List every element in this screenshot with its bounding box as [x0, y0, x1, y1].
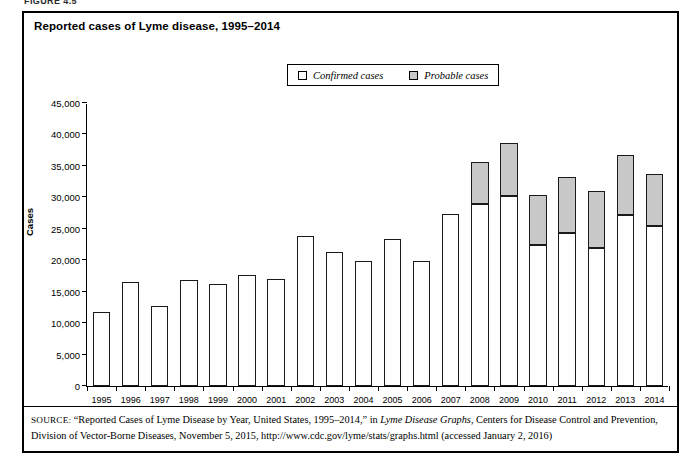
page-title: Reported cases of Lyme disease, 1995–201…	[34, 20, 280, 32]
y-axis-title: Cases	[24, 208, 35, 236]
chart-legend: Confirmed cases Probable cases	[287, 64, 499, 86]
legend-label-probable: Probable cases	[424, 70, 488, 81]
source-label: SOURCE:	[31, 415, 71, 425]
legend-label-confirmed: Confirmed cases	[313, 70, 383, 81]
source-italic-title: Lyme Disease Graphs	[380, 414, 471, 425]
gray-square-icon	[409, 71, 418, 80]
legend-item-confirmed: Confirmed cases	[298, 70, 383, 81]
figure-number-label: FIGURE 4.5	[24, 0, 77, 6]
source-divider	[24, 406, 677, 407]
legend-item-probable: Probable cases	[409, 70, 488, 81]
white-square-icon	[298, 71, 307, 80]
source-text-part1: “Reported Cases of Lyme Disease by Year,…	[71, 414, 380, 425]
source-note: SOURCE: “Reported Cases of Lyme Disease …	[31, 412, 671, 443]
